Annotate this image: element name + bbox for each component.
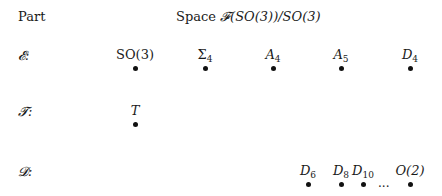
part-column-header: Part (18, 9, 45, 24)
dot-icon (133, 122, 138, 127)
node-d4: D4 (390, 48, 430, 71)
row-label-d: 𝓓: (18, 164, 32, 180)
node-o2: O(2) (390, 164, 430, 187)
node-sigma4: Σ4 (185, 48, 225, 71)
dot-icon (339, 66, 344, 71)
node-label: A4 (253, 48, 293, 62)
space-label: Space (176, 9, 220, 24)
node-label: A5 (321, 48, 361, 62)
dot-icon (408, 66, 413, 71)
space-formula: 𝓕(SO(3))/SO(3) (220, 9, 320, 24)
node-d10: D10 (343, 164, 383, 187)
ellipsis: ... (378, 176, 389, 190)
node-label: T (115, 104, 155, 118)
node-a5: A5 (321, 48, 361, 71)
dot-icon (361, 182, 366, 187)
dot-icon (408, 182, 413, 187)
node-a4: A4 (253, 48, 293, 71)
dot-icon (271, 66, 276, 71)
row-label-e: 𝓔: (18, 48, 29, 64)
node-label: Σ4 (185, 48, 225, 62)
node-so3: SO(3) (115, 48, 155, 71)
row-label-t: 𝓣: (18, 104, 32, 120)
dot-icon (133, 66, 138, 71)
dot-icon (203, 66, 208, 71)
dot-icon (306, 182, 311, 187)
node-label: D4 (390, 48, 430, 62)
node-label: O(2) (390, 164, 430, 178)
node-t: T (115, 104, 155, 127)
node-label: SO(3) (115, 48, 155, 62)
node-label: D10 (343, 164, 383, 178)
space-column-header: Space 𝓕(SO(3))/SO(3) (176, 9, 321, 25)
